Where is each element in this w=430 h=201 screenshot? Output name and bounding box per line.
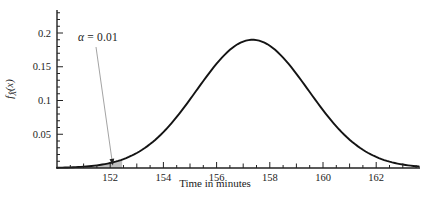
y-label-subscript: X̂ <box>9 91 18 96</box>
x-tick-label: 152 <box>102 172 118 183</box>
y-axis-title: fX̂(x) <box>4 58 18 120</box>
distribution-figure: 1521541561581601620.050.10.150.2 α = 0.0… <box>0 0 430 201</box>
x-tick-label: 160 <box>315 172 331 183</box>
y-label-arg: (x) <box>4 79 15 91</box>
annotation-arrow <box>96 47 112 159</box>
alpha-annotation: α = 0.01 <box>78 31 118 43</box>
y-tick-label: 0.2 <box>38 28 51 39</box>
plot-canvas: 1521541561581601620.050.10.150.2 <box>0 0 430 201</box>
x-tick-label: 162 <box>368 172 384 183</box>
y-tick-label: 0.15 <box>33 61 51 72</box>
alpha-value: = 0.01 <box>84 31 118 43</box>
x-axis-title: Time in minutes <box>138 177 292 189</box>
y-tick-label: 0.1 <box>38 95 51 106</box>
y-tick-label: 0.05 <box>33 129 51 140</box>
y-label-f: f <box>4 96 15 99</box>
density-curve <box>57 40 419 168</box>
